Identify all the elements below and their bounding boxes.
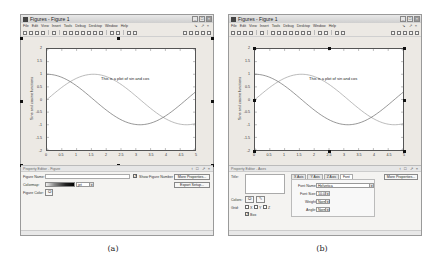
figure-canvas[interactable]: 21.510.50-0.5-1-1.5-200.511.522.533.544.… bbox=[229, 38, 421, 166]
brush-icon[interactable] bbox=[301, 31, 305, 35]
maximize-button[interactable]: □ bbox=[407, 16, 413, 22]
menu-window[interactable]: Window bbox=[313, 24, 326, 28]
font-name-dropdown[interactable]: Helvetica ▾ bbox=[316, 183, 374, 188]
selection-handle[interactable] bbox=[117, 37, 120, 40]
float-icon[interactable] bbox=[409, 31, 413, 35]
close-button[interactable]: × bbox=[414, 16, 420, 22]
menu-view[interactable]: View bbox=[41, 24, 49, 28]
menu-insert[interactable]: Insert bbox=[52, 24, 61, 28]
colorbar-icon[interactable] bbox=[318, 31, 322, 35]
menu-file[interactable]: File bbox=[23, 24, 29, 28]
menu-view[interactable]: View bbox=[249, 24, 257, 28]
axes-selection-handle[interactable] bbox=[328, 150, 331, 153]
dock-controls[interactable]: ↘ ↗ × bbox=[402, 23, 418, 28]
plot-annotation[interactable]: This is a plot of sin and cos bbox=[309, 76, 357, 81]
angle-dropdown[interactable]: Normal ▾ bbox=[316, 207, 330, 212]
panel-controls[interactable]: ↕ □ ↗ × bbox=[399, 166, 419, 171]
maximize-doc-icon[interactable] bbox=[415, 31, 419, 35]
dock-controls[interactable]: ↘ ↗ × bbox=[194, 23, 210, 28]
save-icon[interactable] bbox=[243, 31, 247, 35]
rows-icon[interactable] bbox=[195, 31, 199, 35]
zoom-out-icon[interactable] bbox=[69, 31, 73, 35]
menu-edit[interactable]: Edit bbox=[32, 24, 38, 28]
open-file-icon[interactable] bbox=[29, 31, 33, 35]
rows-icon[interactable] bbox=[403, 31, 407, 35]
axes-selection-handle[interactable] bbox=[253, 47, 256, 50]
legend-icon[interactable] bbox=[324, 31, 328, 35]
export-setup-button[interactable]: Export Setup... bbox=[174, 182, 210, 188]
open-file-icon[interactable] bbox=[237, 31, 241, 35]
minimize-button[interactable]: _ bbox=[192, 16, 198, 22]
menu-help[interactable]: Help bbox=[329, 24, 336, 28]
figure-canvas[interactable]: 21.510.50-0.5-1-1.5-200.511.522.533.544.… bbox=[21, 38, 213, 166]
show-plot-tools-icon[interactable] bbox=[133, 31, 137, 35]
box-checkbox[interactable]: ✓ bbox=[245, 212, 249, 216]
zoom-in-icon[interactable] bbox=[63, 31, 67, 35]
menu-help[interactable]: Help bbox=[121, 24, 128, 28]
plot-annotation[interactable]: This is a plot of sin and cos bbox=[101, 76, 149, 81]
tile-icon[interactable] bbox=[183, 31, 187, 35]
font-size-dropdown[interactable]: 10.0 ▾ bbox=[316, 191, 330, 196]
menu-insert[interactable]: Insert bbox=[260, 24, 269, 28]
link-icon[interactable] bbox=[99, 31, 103, 35]
axes-selection-handle[interactable] bbox=[403, 99, 406, 102]
data-cursor-icon[interactable] bbox=[295, 31, 299, 35]
figure-name-input[interactable] bbox=[45, 174, 130, 179]
selection-handle[interactable] bbox=[211, 37, 214, 40]
selection-handle[interactable] bbox=[211, 100, 214, 103]
zoom-out-icon[interactable] bbox=[277, 31, 281, 35]
new-figure-icon[interactable] bbox=[23, 31, 27, 35]
maximize-doc-icon[interactable] bbox=[207, 31, 211, 35]
print-icon[interactable] bbox=[249, 31, 253, 35]
hide-plot-tools-icon[interactable] bbox=[127, 31, 131, 35]
menu-desktop[interactable]: Desktop bbox=[297, 24, 310, 28]
menu-debug[interactable]: Debug bbox=[75, 24, 86, 28]
weight-dropdown[interactable]: Normal ▾ bbox=[316, 199, 330, 204]
menu-edit[interactable]: Edit bbox=[240, 24, 246, 28]
selection-handle[interactable] bbox=[20, 100, 23, 103]
columns-icon[interactable] bbox=[397, 31, 401, 35]
grid-z-checkbox[interactable] bbox=[263, 205, 267, 209]
pan-icon[interactable] bbox=[283, 31, 287, 35]
show-plot-tools-icon[interactable] bbox=[341, 31, 345, 35]
brush-icon[interactable] bbox=[93, 31, 97, 35]
title-input[interactable] bbox=[245, 174, 285, 194]
colormap-dropdown[interactable]: jet ▾ bbox=[76, 182, 94, 187]
menu-desktop[interactable]: Desktop bbox=[89, 24, 102, 28]
menu-window[interactable]: Window bbox=[105, 24, 118, 28]
more-properties-button[interactable]: More Properties... bbox=[384, 174, 418, 180]
axes-selection-handle[interactable] bbox=[253, 99, 256, 102]
menu-tools[interactable]: Tools bbox=[64, 24, 72, 28]
axes-selection-handle[interactable] bbox=[403, 150, 406, 153]
axes-selection-handle[interactable] bbox=[253, 150, 256, 153]
pan-icon[interactable] bbox=[75, 31, 79, 35]
grid-x-checkbox[interactable] bbox=[245, 205, 249, 209]
legend-icon[interactable] bbox=[116, 31, 120, 35]
menu-debug[interactable]: Debug bbox=[283, 24, 294, 28]
tile-icon[interactable] bbox=[391, 31, 395, 35]
save-icon[interactable] bbox=[35, 31, 39, 35]
axes-selection-handle[interactable] bbox=[328, 47, 331, 50]
figure-color-button[interactable]: ⛁ bbox=[45, 189, 53, 196]
more-properties-button[interactable]: More Properties... bbox=[174, 174, 210, 180]
show-figure-number-checkbox[interactable]: ✓ bbox=[133, 174, 137, 178]
panel-controls[interactable]: ↕ □ ↗ × bbox=[191, 166, 211, 171]
axes[interactable] bbox=[46, 48, 196, 151]
columns-icon[interactable] bbox=[189, 31, 193, 35]
menu-file[interactable]: File bbox=[231, 24, 237, 28]
new-figure-icon[interactable] bbox=[231, 31, 235, 35]
edit-plot-icon[interactable] bbox=[52, 31, 56, 35]
axes-selection-handle[interactable] bbox=[403, 47, 406, 50]
menu-tools[interactable]: Tools bbox=[272, 24, 280, 28]
face-color-button[interactable]: ⛁ bbox=[245, 196, 254, 203]
print-icon[interactable] bbox=[41, 31, 45, 35]
grid-y-checkbox[interactable] bbox=[254, 205, 258, 209]
float-icon[interactable] bbox=[201, 31, 205, 35]
colorbar-icon[interactable] bbox=[110, 31, 114, 35]
axes[interactable] bbox=[254, 48, 404, 151]
minimize-button[interactable]: _ bbox=[400, 16, 406, 22]
rotate-icon[interactable] bbox=[81, 31, 85, 35]
hide-plot-tools-icon[interactable] bbox=[335, 31, 339, 35]
link-icon[interactable] bbox=[307, 31, 311, 35]
close-button[interactable]: × bbox=[206, 16, 212, 22]
